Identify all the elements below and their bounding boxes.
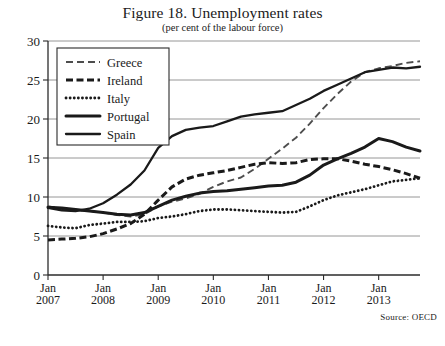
- y-tick-label: 5: [34, 229, 41, 244]
- chart-legend: GreeceIrelandItalyPortugalSpain: [57, 48, 169, 145]
- y-tick-label: 15: [27, 151, 40, 166]
- x-axis-ticks: Jan2007Jan2008Jan2009Jan2010Jan2011Jan20…: [36, 275, 391, 307]
- y-tick-label: 20: [27, 112, 40, 127]
- series-line-ireland: [48, 159, 420, 240]
- x-tick-label-year: 2008: [91, 293, 115, 307]
- legend-label-portugal: Portugal: [107, 110, 150, 124]
- y-tick-label: 30: [27, 34, 40, 49]
- y-axis-ticks: 051015202530: [27, 34, 48, 283]
- x-tick-label-year: 2007: [36, 293, 60, 307]
- x-tick-label-year: 2012: [312, 293, 336, 307]
- x-tick-label-year: 2011: [257, 293, 281, 307]
- legend-label-greece: Greece: [107, 56, 143, 70]
- chart-plot: 051015202530 Jan2007Jan2008Jan2009Jan201…: [0, 0, 445, 346]
- source-note: Source: OECD: [380, 312, 437, 322]
- legend-label-spain: Spain: [107, 128, 136, 142]
- legend-label-italy: Italy: [107, 92, 131, 106]
- y-tick-label: 25: [27, 73, 40, 88]
- x-tick-label-year: 2009: [146, 293, 170, 307]
- legend-label-ireland: Ireland: [107, 74, 143, 88]
- y-tick-label: 10: [27, 190, 40, 205]
- figure-container: Figure 18. Unemployment rates (per cent …: [0, 0, 445, 346]
- x-tick-label-year: 2010: [201, 293, 225, 307]
- x-tick-label-year: 2013: [367, 293, 391, 307]
